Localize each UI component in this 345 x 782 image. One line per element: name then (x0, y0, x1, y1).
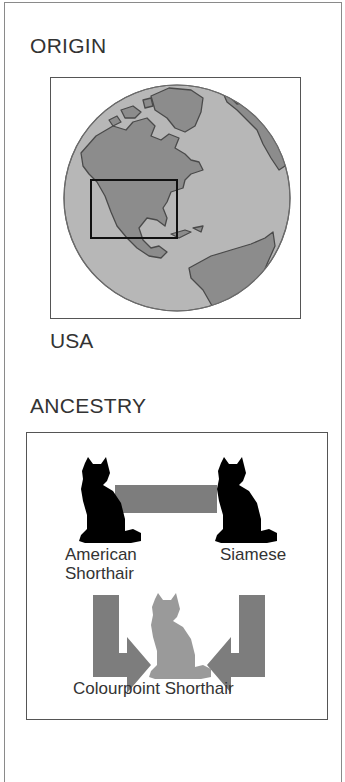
globe-map-icon (51, 78, 299, 317)
origin-map (50, 77, 301, 319)
ancestry-heading: ANCESTRY (30, 395, 146, 416)
origin-country: USA (50, 330, 93, 351)
ancestry-diagram: American Shorthair Siamese Colourpoint S… (26, 432, 328, 720)
cat-silhouette-icon (215, 457, 277, 543)
parent-connector (115, 485, 217, 513)
cat-silhouette-icon (149, 593, 211, 679)
origin-heading: ORIGIN (30, 35, 106, 56)
parent-breed-label: Siamese (220, 545, 286, 564)
offspring-breed-label: Colourpoint Shorthair (73, 679, 234, 698)
parent-breed-label: American Shorthair (65, 545, 137, 583)
